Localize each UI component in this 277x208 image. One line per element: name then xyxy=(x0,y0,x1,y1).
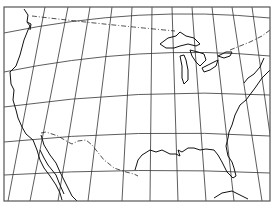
map-figure xyxy=(0,0,277,208)
us-map xyxy=(0,0,277,208)
map-frame xyxy=(4,7,270,201)
graticule-parallels xyxy=(4,14,270,175)
